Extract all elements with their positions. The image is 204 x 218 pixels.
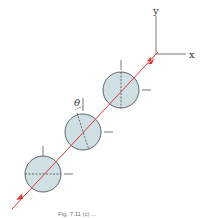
disk-middle: θ [65, 97, 113, 150]
theta-label: θ [74, 97, 80, 108]
y-axis-label: y [152, 5, 159, 16]
figure-caption: Fig. 7.11 (c) ... [58, 211, 97, 217]
coordinate-axes: y x [152, 5, 195, 60]
beam-line [12, 52, 158, 209]
diagram-canvas: y x θ Fig. 7.11 (c) ... [0, 0, 204, 218]
beam-arrow-bottom-icon [16, 194, 23, 200]
x-axis-label: x [189, 49, 195, 60]
